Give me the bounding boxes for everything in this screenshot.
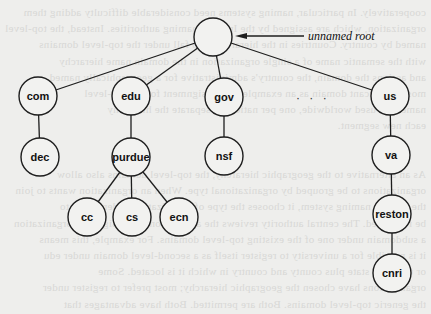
node-cnri: cnri [373,254,411,292]
node-gov: gov [205,78,243,116]
node-label: purdue [112,151,149,163]
node-va: va [372,136,410,174]
node-dec: dec [21,138,59,176]
node-root [194,18,232,56]
node-label: cs [126,211,138,223]
node-label: dec [31,151,50,163]
node-edu: edu [112,77,150,115]
node-label: nsf [216,150,233,162]
root-annotation: unnamed root [235,29,375,43]
node-us: us [371,77,409,115]
dns-hierarchy-tree: comedugovusdecpurduensfvacccsecnrestoncn… [0,0,431,314]
node-cc: cc [68,198,106,236]
node-circle [194,18,232,56]
node-label: va [385,149,398,161]
arrow-left-icon [235,33,247,39]
node-label: gov [214,91,234,103]
node-cs: cs [113,198,151,236]
node-ecn: ecn [160,198,198,236]
node-reston: reston [373,195,411,233]
node-label: cnri [382,267,402,279]
node-label: ecn [170,211,189,223]
tree-nodes: comedugovusdecpurduensfvacccsecnrestoncn… [19,18,411,292]
root-annotation-label: unnamed root [308,29,375,43]
node-label: reston [375,208,409,220]
node-label: us [384,90,397,102]
node-nsf: nsf [205,137,243,175]
node-purdue: purdue [112,138,150,176]
node-label: com [27,90,50,102]
node-label: edu [121,90,141,102]
more-domains-ellipsis: · · · [296,91,330,105]
node-label: cc [81,211,93,223]
node-com: com [19,77,57,115]
